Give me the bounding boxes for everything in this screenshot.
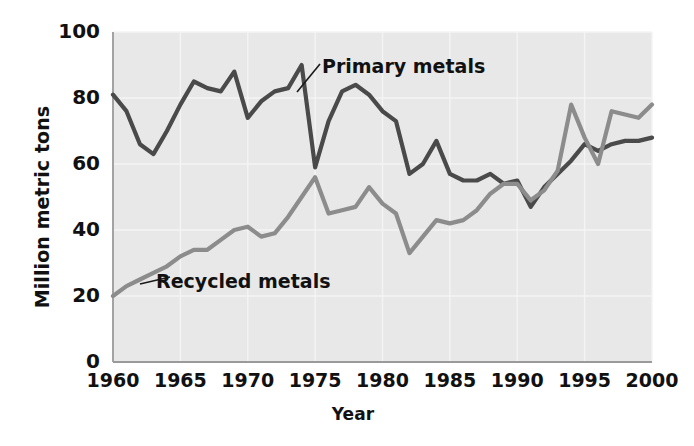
series-label-primary-metals: Primary metals — [322, 55, 485, 77]
x-tick-label: 1975 — [280, 369, 350, 391]
x-tick-label: 1990 — [482, 369, 552, 391]
x-tick-label: 1960 — [78, 369, 148, 391]
x-tick-label: 2000 — [617, 369, 687, 391]
y-tick-label: 20 — [38, 283, 100, 307]
x-tick-label: 1985 — [415, 369, 485, 391]
x-axis-title: Year — [293, 404, 413, 424]
y-tick-label: 40 — [38, 217, 100, 241]
x-tick-label: 1965 — [145, 369, 215, 391]
x-tick-label: 1970 — [213, 369, 283, 391]
x-tick-label: 1980 — [348, 369, 418, 391]
chart-figure: Million metric tons Year 020406080100 19… — [0, 0, 694, 446]
y-tick-label: 80 — [38, 85, 100, 109]
y-tick-label: 100 — [38, 19, 100, 43]
x-tick-label: 1995 — [550, 369, 620, 391]
y-tick-label: 60 — [38, 151, 100, 175]
series-label-recycled-metals: Recycled metals — [156, 270, 330, 292]
